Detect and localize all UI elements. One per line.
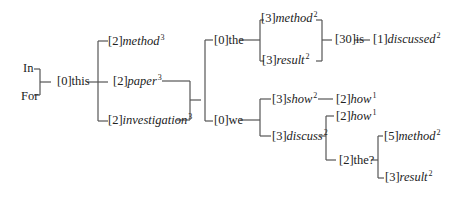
node-superscript: 2 [437, 31, 441, 40]
node-count: [2] [108, 34, 123, 48]
tree-node-the1: [0]the [214, 33, 244, 47]
node-word: this [72, 74, 90, 88]
tree-node-result2: [3]result2 [385, 170, 433, 184]
node-word: investigation [123, 113, 188, 127]
tree-node-method3: [5]method2 [384, 129, 440, 143]
node-superscript: 2 [313, 91, 317, 100]
node-count: [3] [272, 129, 287, 143]
node-superscript: 2 [429, 169, 433, 178]
tree-node-for: For [21, 89, 38, 103]
node-superscript: 1 [372, 108, 376, 117]
tree-node-how2: [2]how1 [336, 109, 376, 123]
node-word: the? [354, 153, 375, 167]
tree-node-the2: [2]the? [339, 153, 374, 167]
node-word: discussed [388, 32, 436, 46]
node-count: [3] [272, 92, 287, 106]
node-word: result [400, 170, 428, 184]
tree-node-we: [0]we [214, 113, 243, 127]
node-word: method [276, 11, 313, 25]
node-superscript: 2 [436, 128, 440, 137]
node-word: the [229, 33, 244, 47]
tree-node-how1: [2]how1 [336, 92, 376, 106]
node-word: is [356, 32, 364, 46]
node-count: [3] [262, 53, 277, 67]
node-count: [2] [113, 74, 128, 88]
node-word: we [229, 113, 244, 127]
node-superscript: 2 [306, 52, 310, 61]
node-count: [5] [384, 129, 399, 143]
tree-node-in: In [23, 61, 33, 75]
tree-node-method2: [3]method2 [261, 11, 317, 25]
tree-node-this: [0]this [57, 74, 90, 88]
node-superscript: 3 [160, 33, 164, 42]
tree-node-result1: [3]result2 [262, 53, 310, 67]
node-count: [0] [214, 33, 229, 47]
node-word: result [277, 53, 305, 67]
node-count: [2] [108, 113, 123, 127]
node-word: discuss [287, 129, 323, 143]
node-count: [3] [385, 170, 400, 184]
node-word: For [21, 89, 38, 103]
tree-node-discussed: [1]discussed2 [373, 32, 441, 46]
tree-connectors [0, 0, 455, 197]
node-superscript: 2 [324, 128, 328, 137]
tree-node-show: [3]show2 [272, 92, 317, 106]
node-count: [2] [336, 92, 351, 106]
tree-node-discuss: [3]discuss2 [272, 129, 328, 143]
node-word: how [351, 109, 372, 123]
node-word: In [23, 61, 33, 75]
node-superscript: 1 [372, 91, 376, 100]
node-word: how [351, 92, 372, 106]
tree-node-paper: [2]paper3 [113, 74, 162, 88]
tree-node-investigation: [2]investigation3 [108, 113, 192, 127]
node-word: method [399, 129, 436, 143]
node-count: [0] [214, 113, 229, 127]
node-count: [3] [261, 11, 276, 25]
node-word: method [123, 34, 160, 48]
tree-node-is: [30]is [335, 32, 364, 46]
node-count: [30] [335, 32, 356, 46]
node-superscript: 3 [158, 73, 162, 82]
node-word: paper [128, 74, 157, 88]
node-word: show [287, 92, 313, 106]
node-count: [1] [373, 32, 388, 46]
node-superscript: 2 [313, 10, 317, 19]
tree-node-method1: [2]method3 [108, 34, 164, 48]
node-count: [2] [339, 153, 354, 167]
node-count: [0] [57, 74, 72, 88]
node-superscript: 3 [188, 112, 192, 121]
node-count: [2] [336, 109, 351, 123]
